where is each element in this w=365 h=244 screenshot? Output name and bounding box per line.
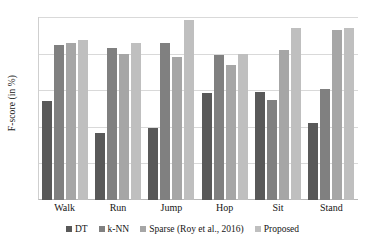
legend-label: k-NN	[108, 224, 130, 234]
bar	[119, 54, 129, 200]
legend-label: DT	[75, 224, 88, 234]
legend: DTk-NNSparse (Roy et al., 2016)Proposed	[0, 224, 365, 234]
legend-swatch-icon	[140, 226, 146, 232]
bar-group	[38, 17, 91, 200]
bar	[66, 43, 76, 200]
bar	[78, 40, 88, 200]
bar-groups	[38, 17, 358, 200]
bar	[267, 100, 277, 200]
bar	[320, 89, 330, 200]
bar-group	[305, 17, 358, 200]
bar	[42, 101, 52, 200]
bar-group	[145, 17, 198, 200]
bar	[332, 30, 342, 200]
bar	[308, 123, 318, 200]
x-axis-label: Stand	[305, 202, 358, 213]
legend-item[interactable]: k-NN	[99, 224, 130, 234]
legend-swatch-icon	[66, 226, 72, 232]
y-axis-title: F-score (in %)	[7, 43, 17, 163]
bar	[95, 133, 105, 200]
bar-group	[91, 17, 144, 200]
legend-swatch-icon	[99, 226, 105, 232]
legend-item[interactable]: DT	[66, 224, 88, 234]
bar	[238, 54, 248, 200]
x-axis-label: Sit	[251, 202, 304, 213]
x-axis-label: Hop	[198, 202, 251, 213]
x-axis-label: Run	[91, 202, 144, 213]
bar	[255, 92, 265, 200]
legend-item[interactable]: Proposed	[255, 224, 299, 234]
x-axis-label: Walk	[38, 202, 91, 213]
bar	[291, 28, 301, 200]
x-axis-labels: WalkRunJumpHopSitStand	[38, 202, 358, 213]
bar	[184, 20, 194, 200]
bar	[107, 48, 117, 200]
legend-label: Sparse (Roy et al., 2016)	[149, 224, 243, 234]
x-axis-label: Jump	[145, 202, 198, 213]
legend-item[interactable]: Sparse (Roy et al., 2016)	[140, 224, 243, 234]
bar-group	[198, 17, 251, 200]
bar	[226, 65, 236, 200]
bar	[160, 43, 170, 200]
bar	[279, 50, 289, 200]
bar	[214, 55, 224, 200]
bar-chart: F-score (in %) 7580859095100 WalkRunJump…	[0, 0, 365, 244]
bar	[344, 28, 354, 200]
bar	[172, 57, 182, 200]
bar	[202, 93, 212, 200]
legend-label: Proposed	[264, 224, 299, 234]
bar	[131, 43, 141, 200]
bar-group	[251, 17, 304, 200]
bar	[148, 128, 158, 200]
bar	[54, 45, 64, 200]
legend-swatch-icon	[255, 226, 261, 232]
